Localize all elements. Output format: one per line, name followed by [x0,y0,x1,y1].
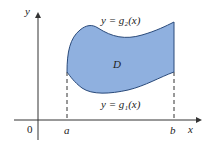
y-axis-label: y [25,5,30,17]
upper-curve-label: y = g₂(x) [101,14,140,26]
a-label: a [64,124,70,136]
lower-curve-label: y = g₁(x) [101,98,140,110]
x-axis-label: x [188,123,193,135]
region-label: D [113,58,121,70]
y-axis-arrow-icon [35,12,41,18]
b-label: b [170,124,176,136]
origin-label: 0 [27,123,33,135]
x-axis-arrow-icon [196,117,202,123]
